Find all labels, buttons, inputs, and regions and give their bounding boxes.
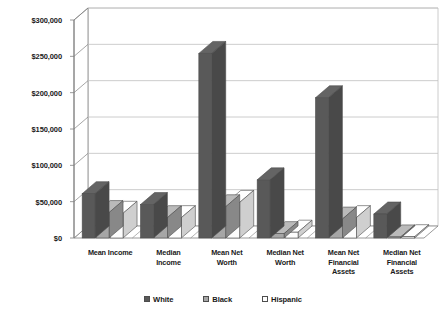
- x-axis-category-label-line: Assets: [310, 267, 376, 277]
- legend-item-hispanic[interactable]: Hispanic: [262, 295, 302, 304]
- x-axis-category-label-line: Mean Income: [77, 248, 143, 258]
- x-axis-category-label: Median NetWorth: [252, 248, 318, 267]
- legend-swatch-icon: [203, 296, 209, 302]
- legend-label: Hispanic: [271, 295, 302, 304]
- x-axis-category-label-line: Financial: [369, 258, 435, 268]
- x-axis-category-label: MedianIncome: [135, 248, 201, 267]
- x-axis-category-label: Mean NetWorth: [194, 248, 260, 267]
- x-axis-category-label-line: Mean Net: [194, 248, 260, 258]
- bar-white-0: [82, 182, 109, 238]
- x-axis-category-label: Mean NetFinancialAssets: [310, 248, 376, 277]
- chart-legend: WhiteBlackHispanic: [0, 291, 446, 307]
- bar-white-3: [257, 168, 284, 238]
- x-axis-category-label-line: Mean Net: [310, 248, 376, 258]
- x-axis-category-label-line: Median Net: [369, 248, 435, 258]
- x-axis-category-label-line: Financial: [310, 258, 376, 268]
- x-axis-category-label-line: Median Net: [252, 248, 318, 258]
- x-axis-category-label: Median NetFinancialAssets: [369, 248, 435, 277]
- x-axis-category-label-line: Worth: [252, 258, 318, 268]
- bar-white-4: [316, 86, 343, 238]
- x-axis-category-label-line: Worth: [194, 258, 260, 268]
- bar-chart: $0$50,000$100,000$150,000$200,000$250,00…: [0, 0, 446, 316]
- bar-white-2: [199, 41, 226, 238]
- legend-label: White: [153, 295, 173, 304]
- x-axis-category-label-line: Median: [135, 248, 201, 258]
- legend-label: Black: [212, 295, 232, 304]
- legend-swatch-icon: [144, 296, 150, 302]
- x-axis-category-label: Mean Income: [77, 248, 143, 258]
- legend-item-black[interactable]: Black: [203, 295, 232, 304]
- x-axis-tick-labels: Mean IncomeMedianIncomeMean NetWorthMedi…: [0, 246, 446, 292]
- x-axis-category-label-line: Assets: [369, 267, 435, 277]
- legend-swatch-icon: [262, 296, 268, 302]
- legend-item-white[interactable]: White: [144, 295, 173, 304]
- x-axis-category-label-line: Income: [135, 258, 201, 268]
